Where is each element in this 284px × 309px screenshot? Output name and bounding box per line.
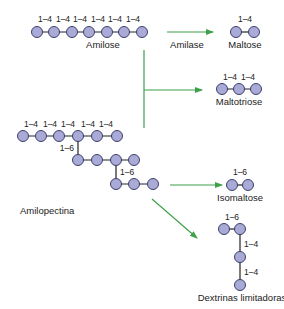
bond-label: 1–4 <box>61 119 75 129</box>
dextrinas-label: Dextrinas limitadoras <box>198 292 284 303</box>
bond-label: 1–4 <box>91 14 105 24</box>
amilopectina-label: Amilopectina <box>20 205 75 216</box>
bond-label: 1–4 <box>244 267 258 277</box>
amylase-digestion-diagram: 1–4 1–4 1–4 1–4 1–4 1–4 Amilose Amilase … <box>0 0 284 309</box>
bond-label: 1–4 <box>244 239 258 249</box>
bond-label: 1–6 <box>225 212 239 222</box>
reaction-arrows <box>144 32 222 238</box>
bond-label: 1–4 <box>56 14 70 24</box>
bond-label: 1–4 <box>223 72 237 82</box>
amilose-chain: 1–4 1–4 1–4 1–4 1–4 1–4 Amilose <box>32 14 148 50</box>
bond-label: 1–4 <box>108 14 122 24</box>
bond-label: 1–4 <box>24 119 38 129</box>
enzyme-label: Amilase <box>170 39 204 50</box>
maltose: 1–4 Maltose <box>228 14 261 50</box>
isomaltose-label: Isomaltose <box>217 192 263 203</box>
bond-label: 1–4 <box>43 119 57 129</box>
bond-label: 1–4 <box>238 14 252 24</box>
bond-label: 1–6 <box>120 167 134 177</box>
bond-label: 1–4 <box>126 14 140 24</box>
maltotriose-label: Maltotriose <box>216 96 262 107</box>
isomaltose: 1–6 Isomaltose <box>217 167 263 203</box>
amilopectina-chain: 1–4 1–4 1–4 1–4 1–4 1–6 1–6 Amilopectina <box>18 119 159 216</box>
amilose-label: Amilose <box>86 39 120 50</box>
bond-label: 1–6 <box>60 143 74 153</box>
maltose-label: Maltose <box>228 39 261 50</box>
bond-label: 1–4 <box>38 14 52 24</box>
dextrinas-limitadoras: 1–6 1–4 1–4 Dextrinas limitadoras <box>198 212 284 303</box>
bond-label: 1–6 <box>233 167 247 177</box>
bond-label: 1–4 <box>81 119 95 129</box>
arrow-to-dextrinas <box>152 199 197 238</box>
bond-label: 1–4 <box>73 14 87 24</box>
bond-label: 1–4 <box>99 119 113 129</box>
maltotriose: 1–4 1–4 Maltotriose <box>216 72 262 107</box>
bond-label: 1–4 <box>241 72 255 82</box>
